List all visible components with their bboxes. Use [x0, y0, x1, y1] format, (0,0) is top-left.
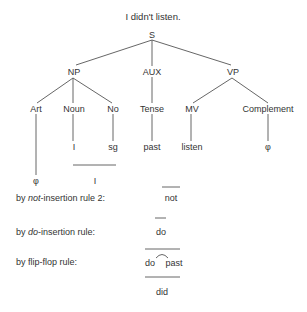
result-past-right: past	[165, 258, 182, 268]
rule-italic: do	[28, 227, 38, 237]
rule-italic: not	[28, 193, 41, 203]
node-mv: MV	[185, 104, 199, 114]
leaf-past: past	[143, 142, 160, 152]
node-complement: Complement	[242, 104, 293, 114]
node-s: S	[149, 30, 155, 40]
node-art: Art	[30, 104, 42, 114]
final-did: did	[156, 287, 168, 297]
result-do: do	[156, 227, 166, 237]
result-do-left: do	[145, 258, 155, 268]
rule-flip-flop: by flip-flop rule:	[16, 257, 77, 267]
leaf-i: I	[73, 142, 76, 152]
node-np: NP	[68, 67, 81, 77]
rule-suffix: -insertion rule:	[38, 227, 95, 237]
leaf-complement-null: φ	[265, 142, 271, 152]
leaf-sg: sg	[108, 142, 118, 152]
node-noun: Noun	[63, 104, 85, 114]
node-tense: Tense	[140, 104, 164, 114]
rule-not-insertion: by not-insertion rule 2:	[16, 193, 105, 203]
result-not: not	[165, 193, 178, 203]
node-vp: VP	[227, 67, 239, 77]
leaf-listen: listen	[181, 142, 202, 152]
rule-prefix: by	[16, 227, 28, 237]
rule-do-insertion: by do-insertion rule:	[16, 227, 95, 237]
node-no: No	[107, 104, 119, 114]
node-aux: AUX	[143, 67, 162, 77]
leaf-art-null: φ	[33, 176, 39, 186]
rule-suffix: -insertion rule 2:	[41, 193, 106, 203]
leaf-combined-i: I	[94, 176, 97, 186]
sentence-title: I didn't listen.	[125, 12, 180, 22]
rule-prefix: by	[16, 193, 28, 203]
